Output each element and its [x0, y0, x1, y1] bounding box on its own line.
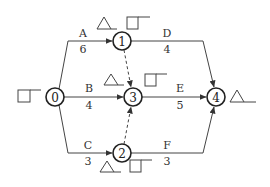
node-1-triangle-blank: [97, 17, 117, 29]
node-3-triangle-blank: [104, 74, 124, 85]
activity-F-name: F: [163, 139, 171, 152]
activity-D-duration: 4: [164, 43, 171, 56]
activity-D-name: D: [163, 27, 172, 40]
activity-F-edge: [131, 107, 214, 153]
node-4-label: 4: [212, 91, 220, 105]
node-1-label: 1: [118, 35, 126, 49]
activity-A-duration: 6: [80, 43, 87, 56]
activity-F-duration: 3: [164, 155, 171, 168]
activity-E-duration: 5: [177, 99, 184, 112]
node-0-label: 0: [51, 91, 59, 105]
node-2-label: 2: [118, 147, 126, 161]
node-4-triangle-blank: [230, 90, 256, 102]
activity-C-duration: 3: [85, 155, 92, 168]
node-0: 0: [46, 88, 64, 106]
node-0-square-blank: [18, 90, 41, 102]
dummy-2-3-edge: [124, 107, 131, 144]
node-2-triangle-blank: [100, 161, 121, 172]
node-3-square-blank: [145, 74, 167, 86]
node-4: 4: [207, 88, 225, 106]
activity-B-name: B: [85, 82, 93, 95]
node-1-square-blank: [127, 17, 150, 29]
network-diagram: A 6 B 4 C 3 D 4 E 5 F 3 0 1 2 3 4: [0, 0, 270, 187]
activity-E-name: E: [176, 82, 184, 95]
node-1: 1: [113, 32, 131, 50]
activity-C-name: C: [84, 139, 92, 152]
activity-A-name: A: [78, 27, 88, 40]
node-2: 2: [113, 144, 131, 162]
node-3: 3: [124, 88, 142, 106]
dummy-1-3-edge: [124, 50, 131, 87]
node-3-label: 3: [129, 91, 137, 105]
activity-D-edge: [131, 41, 214, 87]
node-2-square-blank: [130, 160, 152, 172]
activity-B-duration: 4: [86, 99, 93, 112]
